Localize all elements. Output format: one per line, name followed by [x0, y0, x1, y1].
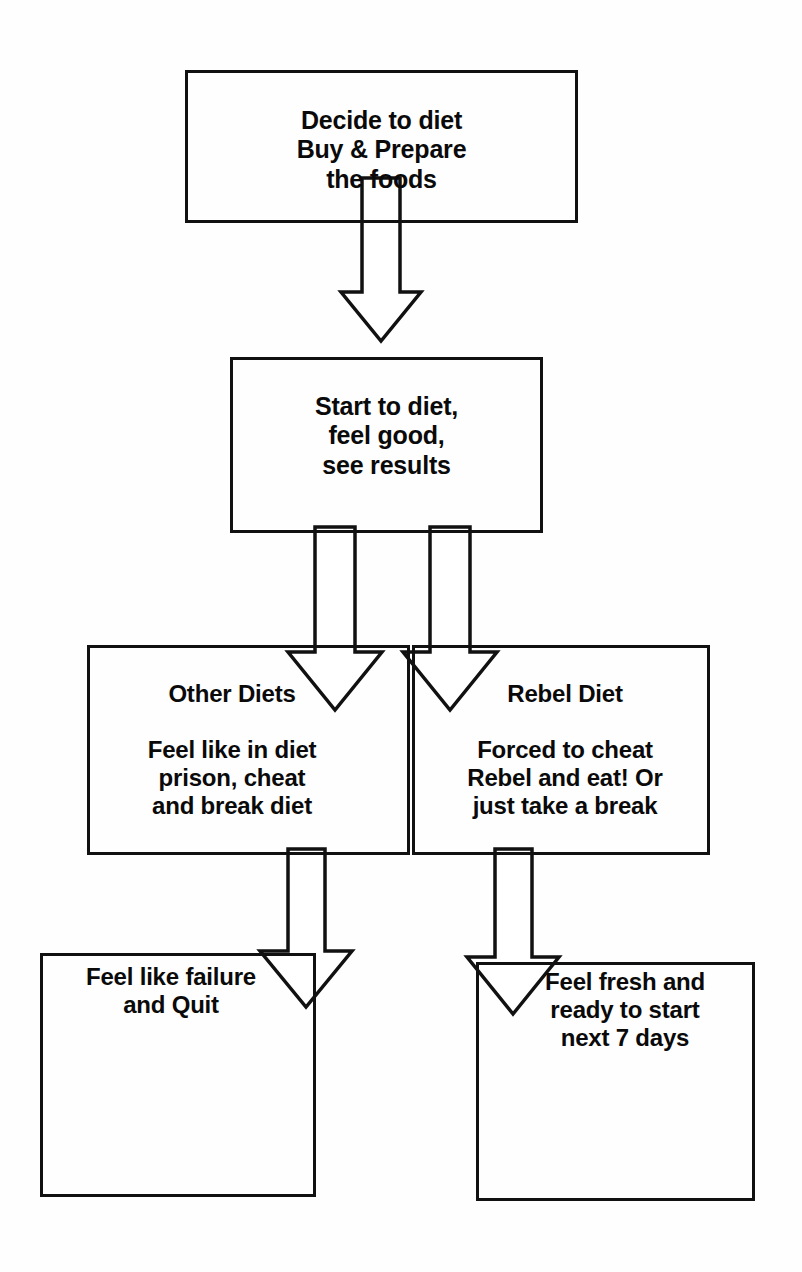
node-other-diets-heading: Other Diets: [87, 680, 377, 708]
node-rebel-diet-label: Forced to cheat Rebel and eat! Or just t…: [420, 736, 710, 820]
node-feel-fresh-ready-label: Feel fresh and ready to start next 7 day…: [494, 968, 756, 1052]
node-decide-to-diet-label: Decide to diet Buy & Prepare the foods: [185, 106, 578, 194]
node-start-to-diet-label: Start to diet, feel good, see results: [230, 392, 543, 480]
node-other-diets-label: Feel like in diet prison, cheat and brea…: [87, 736, 377, 820]
node-feel-like-failure-label: Feel like failure and Quit: [40, 963, 302, 1019]
flowchart-canvas: Decide to diet Buy & Prepare the foods S…: [0, 0, 802, 1272]
node-rebel-diet-heading: Rebel Diet: [420, 680, 710, 708]
